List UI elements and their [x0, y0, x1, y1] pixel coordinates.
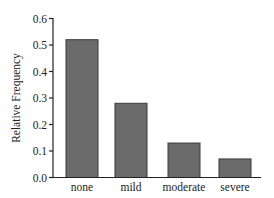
x-category-label: severe	[220, 181, 249, 193]
y-axis-title: Relative Frequency	[10, 53, 23, 143]
y-tick-label: 0.4	[33, 66, 48, 78]
y-tick-label: 0.2	[33, 119, 48, 131]
bar-moderate	[168, 143, 200, 177]
bar-none	[66, 40, 98, 178]
y-tick-label: 0.6	[33, 13, 48, 25]
y-axis-ticks: 0.00.10.20.30.40.50.6	[33, 13, 53, 184]
bars	[66, 40, 251, 178]
y-tick-label: 0.5	[33, 39, 48, 51]
x-category-label: none	[71, 181, 93, 193]
x-category-label: mild	[120, 181, 141, 193]
bar-mild	[115, 103, 147, 177]
y-tick-label: 0.1	[33, 145, 48, 157]
x-category-label: moderate	[163, 181, 206, 193]
y-tick-label: 0.3	[33, 92, 48, 104]
x-axis-labels: nonemildmoderatesevere	[71, 181, 250, 193]
bar-severe	[219, 159, 251, 178]
bar-chart: Relative Frequency 0.00.10.20.30.40.50.6…	[0, 0, 274, 198]
y-tick-label: 0.0	[33, 172, 48, 184]
